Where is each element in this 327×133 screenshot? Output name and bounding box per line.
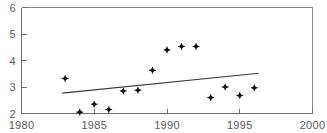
chart-canvas: 2 3 4 5 6 1980 1985 1990 1995 2000 bbox=[0, 0, 327, 133]
data-point bbox=[251, 84, 258, 91]
data-point bbox=[76, 109, 83, 116]
y-tick-label-1: 3 bbox=[10, 81, 16, 93]
x-tick-label-4: 2000 bbox=[300, 119, 326, 131]
data-point bbox=[178, 43, 185, 50]
y-axis-ticks: 2 3 4 5 6 bbox=[10, 2, 27, 120]
data-point bbox=[91, 101, 98, 108]
x-tick-label-1: 1985 bbox=[81, 119, 107, 131]
data-point bbox=[164, 47, 171, 54]
data-point bbox=[236, 92, 243, 99]
y-tick-label-2: 4 bbox=[10, 55, 16, 67]
y-tick-label-0: 2 bbox=[10, 108, 16, 120]
trend-line bbox=[62, 73, 258, 93]
data-point bbox=[207, 94, 214, 101]
data-point bbox=[222, 84, 229, 91]
scatter-chart: 2 3 4 5 6 1980 1985 1990 1995 2000 bbox=[0, 0, 327, 133]
data-point bbox=[120, 88, 127, 95]
x-tick-label-0: 1980 bbox=[9, 119, 35, 131]
data-point bbox=[105, 106, 112, 113]
x-tick-label-2: 1990 bbox=[154, 119, 180, 131]
data-point bbox=[62, 75, 69, 82]
y-tick-label-3: 5 bbox=[10, 28, 16, 40]
plot-frame bbox=[22, 8, 313, 114]
data-point bbox=[149, 67, 156, 74]
x-tick-label-3: 1995 bbox=[227, 119, 253, 131]
data-point bbox=[135, 87, 142, 94]
data-point bbox=[193, 43, 200, 50]
y-tick-label-4: 6 bbox=[10, 2, 16, 14]
data-points-layer bbox=[62, 43, 258, 116]
x-axis-ticks: 1980 1985 1990 1995 2000 bbox=[9, 109, 326, 132]
trend-line-layer bbox=[62, 73, 258, 93]
